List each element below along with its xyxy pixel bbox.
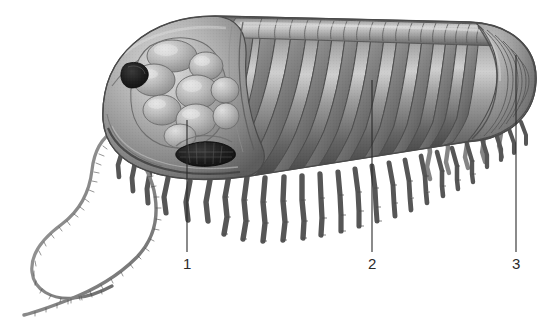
callout-label-2: 2 bbox=[368, 256, 376, 271]
trilobite-illustration-figure: 1 2 3 bbox=[0, 0, 554, 324]
callout-label-1: 1 bbox=[183, 256, 191, 271]
carapace-group bbox=[95, 10, 545, 190]
callout-label-3: 3 bbox=[512, 256, 520, 271]
trilobite-drawing bbox=[0, 0, 554, 324]
